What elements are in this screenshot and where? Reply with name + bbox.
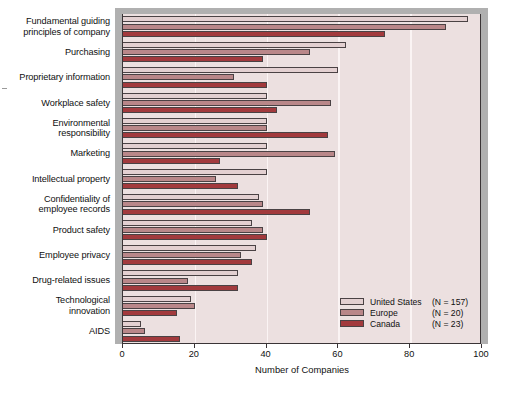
category-label: Fundamental guidingprinciples of company — [0, 16, 110, 37]
bar-group — [123, 116, 480, 141]
bar-group — [123, 268, 480, 293]
category-label-line: Purchasing — [0, 47, 110, 58]
bar-canada — [123, 310, 177, 316]
category-label: AIDS — [0, 326, 110, 337]
x-tick-mark — [337, 344, 338, 348]
category-label-line: Environmental — [0, 118, 110, 129]
category-label: Marketing — [0, 148, 110, 159]
bar-group — [123, 217, 480, 242]
legend-label: Canada — [370, 319, 432, 329]
category-label-line: Workplace safety — [0, 98, 110, 109]
category-label: Workplace safety — [0, 98, 110, 109]
x-tick-label: 60 — [332, 349, 342, 359]
bar-us — [123, 169, 267, 175]
legend-sample-size: (N = 157) — [432, 297, 468, 307]
bar-us — [123, 296, 191, 302]
bar-canada — [123, 82, 267, 88]
x-tick-label: 40 — [260, 349, 270, 359]
bar-europe — [123, 227, 263, 233]
bar-canada — [123, 209, 310, 215]
bar-canada — [123, 234, 267, 240]
bar-canada — [123, 158, 220, 164]
category-label: Drug-related issues — [0, 275, 110, 286]
category-label: Purchasing — [0, 47, 110, 58]
x-tick-mark — [409, 344, 410, 348]
category-label: Confidentiality ofemployee records — [0, 194, 110, 215]
x-tick-label: 20 — [189, 349, 199, 359]
bar-us — [123, 220, 252, 226]
x-tick-label: 100 — [473, 349, 488, 359]
bar-europe — [123, 100, 331, 106]
bar-europe — [123, 252, 241, 258]
bar-europe — [123, 74, 234, 80]
x-axis-title: Number of Companies — [122, 364, 482, 375]
plot-area — [122, 14, 481, 344]
bar-us — [123, 194, 259, 200]
bar-group — [123, 192, 480, 217]
bar-europe — [123, 24, 446, 30]
category-label: Intellectual property — [0, 174, 110, 185]
bar-us — [123, 118, 267, 124]
category-label: Proprietary information — [0, 72, 110, 83]
bar-groups — [123, 14, 480, 343]
bar-europe — [123, 49, 310, 55]
legend-label: Europe — [370, 308, 432, 318]
bar-us — [123, 245, 256, 251]
legend-label: United States — [370, 297, 432, 307]
bar-us — [123, 16, 468, 22]
category-label-line: responsibility — [0, 128, 110, 139]
bar-us — [123, 270, 238, 276]
category-label-line: Marketing — [0, 148, 110, 159]
legend-item: Europe(N = 20) — [340, 307, 480, 318]
bar-canada — [123, 132, 328, 138]
bar-group — [123, 166, 480, 191]
category-label: Product safety — [0, 225, 110, 236]
legend-sample-size: (N = 23) — [432, 319, 463, 329]
category-axis-labels: Fundamental guidingprinciples of company… — [0, 14, 114, 344]
category-label-line: principles of company — [0, 27, 110, 38]
bar-europe — [123, 176, 216, 182]
x-tick-mark — [266, 344, 267, 348]
bar-group — [123, 242, 480, 267]
bar-canada — [123, 259, 252, 265]
bar-group — [123, 65, 480, 90]
x-tick-label: 0 — [119, 349, 124, 359]
bar-group — [123, 14, 480, 39]
x-tick-mark — [194, 344, 195, 348]
category-label-line: Confidentiality of — [0, 194, 110, 205]
x-tick-mark — [122, 344, 123, 348]
bar-group — [123, 39, 480, 64]
category-label-line: Intellectual property — [0, 174, 110, 185]
legend-sample-size: (N = 20) — [432, 308, 463, 318]
category-label-line: innovation — [0, 306, 110, 317]
bar-group — [123, 141, 480, 166]
category-label: Environmentalresponsibility — [0, 118, 110, 139]
bar-canada — [123, 31, 385, 37]
category-label-line: Employee privacy — [0, 250, 110, 261]
bar-canada — [123, 183, 238, 189]
bar-europe — [123, 328, 145, 334]
category-label-line: employee records — [0, 204, 110, 215]
bar-canada — [123, 56, 263, 62]
category-label: Employee privacy — [0, 250, 110, 261]
bar-us — [123, 143, 267, 149]
bar-europe — [123, 201, 263, 207]
bar-canada — [123, 107, 277, 113]
bar-europe — [123, 278, 188, 284]
category-label-line: Technological — [0, 295, 110, 306]
category-label-line: AIDS — [0, 326, 110, 337]
legend-swatch-canada — [340, 320, 364, 327]
category-label-line: Drug-related issues — [0, 275, 110, 286]
category-label-line: Fundamental guiding — [0, 16, 110, 27]
x-axis-ticks: 020406080100 — [122, 344, 482, 360]
chart-legend: United States(N = 157)Europe(N = 20)Cana… — [340, 296, 480, 329]
legend-item: United States(N = 157) — [340, 296, 480, 307]
bar-us — [123, 67, 338, 73]
bar-canada — [123, 336, 180, 342]
bar-europe — [123, 151, 335, 157]
bar-europe — [123, 125, 267, 131]
bar-us — [123, 93, 267, 99]
bar-europe — [123, 303, 195, 309]
bar-canada — [123, 285, 238, 291]
legend-swatch-europe — [340, 309, 364, 316]
